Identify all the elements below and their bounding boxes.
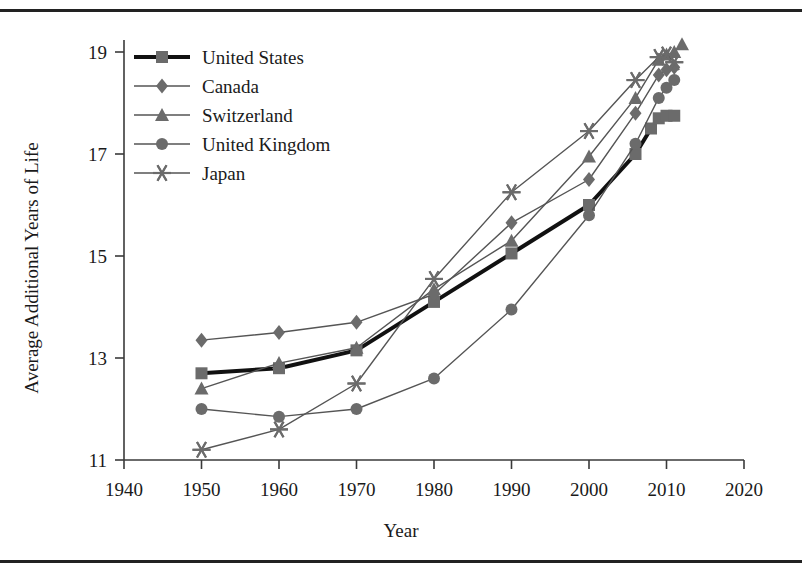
marker-circle <box>156 138 168 150</box>
marker-triangle <box>582 150 596 163</box>
y-tick-label: 15 <box>88 246 107 267</box>
x-tick-label: 1940 <box>105 479 143 500</box>
figure-container: 1113151719194019501960197019801990200020… <box>0 0 802 572</box>
legend-entry-switzerland[interactable]: Switzerland <box>134 105 293 126</box>
marker-square <box>668 110 680 122</box>
marker-circle <box>583 209 595 221</box>
marker-circle <box>196 403 208 415</box>
legend-label: Canada <box>202 76 260 97</box>
x-axis-title: Year <box>0 520 802 542</box>
x-tick-label: 2020 <box>725 479 763 500</box>
marker-triangle <box>427 282 441 295</box>
marker-diamond <box>273 325 285 340</box>
legend-entry-japan[interactable]: Japan <box>134 163 246 184</box>
marker-asterisk <box>153 165 171 181</box>
y-axis-title: Average Additional Years of Life <box>21 68 43 468</box>
marker-circle <box>506 304 518 316</box>
y-tick-label: 17 <box>88 144 107 165</box>
marker-diamond <box>156 79 168 94</box>
marker-diamond <box>196 333 208 348</box>
marker-triangle <box>195 382 209 395</box>
legend-entry-united-states[interactable]: United States <box>134 47 304 68</box>
marker-square <box>156 51 168 63</box>
legend-entry-united-kingdom[interactable]: United Kingdom <box>134 134 330 155</box>
marker-square <box>196 367 208 379</box>
marker-circle <box>428 372 440 384</box>
x-tick-label: 2010 <box>648 479 686 500</box>
x-tick-label: 1990 <box>493 479 531 500</box>
chart-legend: United StatesCanadaSwitzerlandUnited Kin… <box>134 47 330 184</box>
y-tick-label: 13 <box>88 348 107 369</box>
x-tick-label: 1980 <box>415 479 453 500</box>
series-switzerland <box>195 37 690 394</box>
marker-circle <box>668 74 680 86</box>
bottom-horizontal-rule <box>0 560 802 563</box>
x-tick-label: 1970 <box>338 479 376 500</box>
legend-label: Switzerland <box>202 105 293 126</box>
x-tick-label: 2000 <box>570 479 608 500</box>
series-group <box>193 37 690 457</box>
legend-label: Japan <box>202 163 246 184</box>
marker-asterisk <box>193 442 211 458</box>
chart-plot-area: 1113151719194019501960197019801990200020… <box>0 12 802 558</box>
marker-circle <box>653 92 665 104</box>
series-line <box>202 44 683 388</box>
marker-triangle <box>675 37 689 50</box>
y-tick-label: 19 <box>88 42 107 63</box>
legend-label: United Kingdom <box>202 134 330 155</box>
series-line <box>202 80 675 417</box>
legend-entry-canada[interactable]: Canada <box>134 76 260 97</box>
marker-diamond <box>506 215 518 230</box>
marker-asterisk <box>270 422 288 438</box>
marker-square <box>506 247 518 259</box>
marker-diamond <box>351 315 363 330</box>
legend-label: United States <box>202 47 304 68</box>
x-tick-label: 1950 <box>183 479 221 500</box>
marker-asterisk <box>348 376 366 392</box>
line-chart: 1113151719194019501960197019801990200020… <box>0 12 802 558</box>
y-tick-label: 11 <box>89 450 107 471</box>
marker-triangle <box>629 91 643 104</box>
axes-group: 1113151719194019501960197019801990200020… <box>88 40 763 500</box>
marker-circle <box>273 411 285 423</box>
x-tick-label: 1960 <box>260 479 298 500</box>
marker-circle <box>630 138 642 150</box>
marker-circle <box>351 403 363 415</box>
